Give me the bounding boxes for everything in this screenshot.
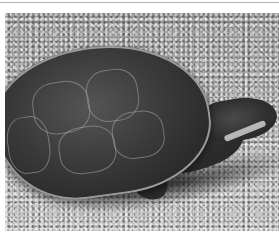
top-border-line	[0, 2, 279, 3]
shell-scute	[109, 108, 167, 162]
turtle-photo	[5, 13, 279, 231]
turtle-head	[202, 92, 279, 146]
